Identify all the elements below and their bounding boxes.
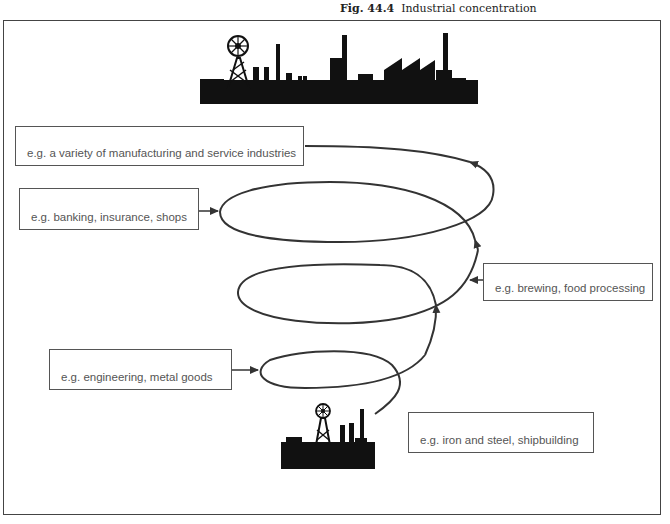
industrial-skyline-icon bbox=[200, 33, 478, 104]
growth-spiral bbox=[220, 146, 494, 414]
label-consumer-industries: e.g. brewing, food processing bbox=[483, 263, 653, 301]
label-tertiary-services: e.g. banking, insurance, shops bbox=[19, 188, 199, 230]
label-heavy-industries-text: e.g. iron and steel, shipbuilding bbox=[420, 434, 579, 446]
label-consumer-industries-text: e.g. brewing, food processing bbox=[495, 282, 645, 294]
label-tertiary-services-text: e.g. banking, insurance, shops bbox=[31, 211, 187, 223]
label-varied-industries-text: e.g. a variety of manufacturing and serv… bbox=[27, 147, 296, 159]
small-industrial-town-icon bbox=[281, 404, 375, 469]
label-varied-industries: e.g. a variety of manufacturing and serv… bbox=[15, 126, 304, 166]
label-heavy-industries: e.g. iron and steel, shipbuilding bbox=[408, 412, 594, 453]
label-secondary-industries-text: e.g. engineering, metal goods bbox=[61, 371, 213, 383]
label-secondary-industries: e.g. engineering, metal goods bbox=[49, 349, 232, 390]
